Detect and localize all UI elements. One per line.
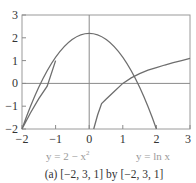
y-ticks xyxy=(22,15,26,129)
x-tick-label: −1 xyxy=(49,132,62,146)
x-tick-label: 2 xyxy=(153,132,159,146)
x-tick-label: 3 xyxy=(185,132,191,146)
y-tick-label: −1 xyxy=(5,99,18,113)
ln-curve xyxy=(94,58,190,129)
parabola-label: y = 2 − x2 xyxy=(46,149,90,162)
ln-label: y = ln x xyxy=(136,150,171,162)
chart: 3 2 1 0 −1 −2 −2 −1 0 1 2 3 y = 2 − x2 y… xyxy=(0,0,196,183)
y-tick-label: 2 xyxy=(12,31,18,45)
y-tick-label: 1 xyxy=(12,54,18,68)
x-ticks xyxy=(22,125,190,129)
x-tick-label: −2 xyxy=(16,132,29,146)
y-tick-label: 0 xyxy=(12,76,18,90)
figure-caption: (a) [−2, 3, 1] by [−2, 3, 1] xyxy=(45,168,164,181)
y-tick-label: 3 xyxy=(12,8,18,22)
x-tick-label: 1 xyxy=(120,132,126,146)
x-tick-label: 0 xyxy=(86,132,92,146)
